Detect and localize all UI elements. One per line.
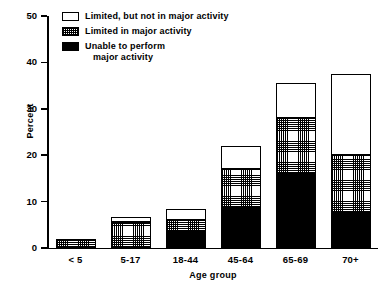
x-axis-tick-label: 65-69 [268,254,323,265]
y-axis-tick-label: 20 [11,149,37,160]
legend-item: Limited, but not in major activity [62,11,229,22]
legend-label: Unable to perform major activity [85,41,165,63]
legend-item: Unable to perform major activity [62,41,229,63]
stacked-bar-chart: Percent 01020304050 < 55-1718-4445-6465-… [0,0,387,291]
x-axis-title: Age group [48,270,378,280]
bar-70- [331,74,371,248]
legend-swatch-icon [62,42,79,51]
bar-segment [331,213,371,248]
legend-label: Limited in major activity [85,26,192,37]
bar-segment [221,169,261,208]
bar-segment [166,232,206,248]
legend-swatch-icon [62,12,79,21]
bar-segment [276,118,316,174]
bar-segment [331,155,371,213]
bar-segment [221,208,261,248]
x-axis-tick-label: < 5 [48,254,103,265]
legend-label: Limited, but not in major activity [85,11,229,22]
chart-legend: Limited, but not in major activityLimite… [62,11,229,67]
y-axis-tick [41,154,47,156]
bar-segment [111,222,151,248]
y-axis-tick [41,108,47,110]
x-axis-tick-label: 5-17 [103,254,158,265]
y-axis-tick-label: 10 [11,196,37,207]
y-axis-tick [41,15,47,17]
bar-segment [56,239,96,248]
y-axis-tick-label: 30 [11,103,37,114]
y-axis-tick-label: 50 [11,10,37,21]
x-axis-tick-label: 70+ [323,254,378,265]
x-axis-tick-label: 18-44 [158,254,213,265]
y-axis-tick [41,247,47,249]
bar-65-69 [276,83,316,248]
bar-segment [111,217,151,223]
bar--5 [56,239,96,248]
bar-45-64 [221,146,261,248]
y-axis-tick-label: 40 [11,56,37,67]
bar-segment [276,83,316,118]
bar-segment [221,146,261,169]
bar-segment [166,209,206,221]
bar-5-17 [111,217,151,248]
bar-segment [166,220,206,232]
legend-swatch-icon [62,27,79,36]
x-axis-tick-label: 45-64 [213,254,268,265]
y-axis-tick-label: 0 [11,242,37,253]
y-axis-tick [41,201,47,203]
legend-item: Limited in major activity [62,26,229,37]
bar-segment [276,174,316,248]
bar-segment [331,74,371,155]
y-axis-tick [41,62,47,64]
bar-18-44 [166,209,206,248]
